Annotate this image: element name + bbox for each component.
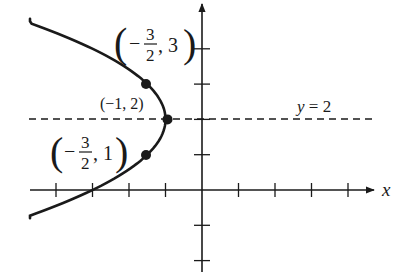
fraction-denominator: 2	[81, 154, 90, 173]
fraction-numerator: 3	[146, 25, 155, 44]
parabola-figure: x y = 2 ( − 3 2 , 3 ) (−1, 2) ( − 3 2 , …	[0, 0, 409, 272]
paren-open: (	[50, 129, 63, 174]
paren-close: )	[183, 21, 196, 66]
point-top-marker	[141, 79, 151, 89]
x-axis-label: x	[381, 179, 391, 200]
point-vertex-label: (−1, 2)	[100, 95, 144, 113]
minus-sign: −	[64, 140, 75, 162]
y-value: 3	[168, 34, 178, 56]
comma-and-value: , 3	[158, 34, 178, 56]
paren-open: (	[114, 19, 127, 66]
point-vertex-marker	[163, 114, 173, 124]
paren-close: )	[115, 129, 128, 174]
label-y-var: y	[295, 97, 305, 116]
axis-of-symmetry-label: y = 2	[295, 97, 331, 116]
y-value: 1	[103, 142, 113, 164]
comma: ,	[93, 142, 103, 164]
fraction-numerator: 3	[81, 133, 90, 152]
point-top-label: ( − 3 2 , 3 )	[114, 19, 196, 66]
point-bottom-label: ( − 3 2 , 1 )	[50, 129, 128, 174]
comma: ,	[158, 34, 168, 56]
point-bottom-marker	[141, 150, 151, 160]
label-equals-two: = 2	[305, 97, 332, 116]
fraction-denominator: 2	[146, 46, 155, 65]
comma-and-value: , 1	[93, 142, 113, 164]
minus-sign: −	[129, 32, 140, 54]
